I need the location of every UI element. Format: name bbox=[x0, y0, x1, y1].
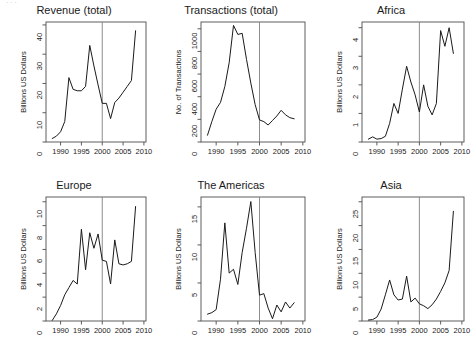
x-tick-label: 2010 bbox=[130, 148, 158, 156]
chart-panel-transactions-total: Transactions (total)02004006008001000199… bbox=[155, 4, 317, 176]
y-axis-label-the-americas: Billions US Dollars bbox=[175, 228, 183, 290]
y-tick-label: 0 bbox=[352, 321, 360, 345]
y-tick-label: 0 bbox=[352, 142, 360, 166]
y-tick-label: 0 bbox=[191, 142, 199, 166]
y-tick-label: 8 bbox=[36, 226, 44, 250]
data-series-line bbox=[208, 202, 295, 319]
data-series-line bbox=[208, 25, 295, 135]
y-tick-label: 200 bbox=[191, 119, 199, 143]
plot-frame bbox=[201, 197, 305, 321]
data-series-line bbox=[368, 211, 453, 320]
y-tick-label: 5 bbox=[352, 297, 360, 321]
y-tick-label: 30 bbox=[36, 54, 44, 78]
y-tick-label: 2 bbox=[352, 85, 360, 109]
x-tick-label: 2010 bbox=[289, 327, 317, 335]
y-axis-label-asia: Billions US Dollars bbox=[336, 228, 344, 290]
y-tick-label: 5 bbox=[191, 283, 199, 307]
y-tick-label: 4 bbox=[352, 28, 360, 52]
x-tick-label: 2010 bbox=[289, 148, 317, 156]
x-tick-label: 2010 bbox=[130, 327, 158, 335]
y-tick-label: 10 bbox=[191, 245, 199, 269]
y-tick-label: 15 bbox=[191, 207, 199, 231]
y-tick-label: 20 bbox=[36, 83, 44, 107]
y-tick-label: 0 bbox=[191, 321, 199, 345]
y-tick-label: 40 bbox=[36, 25, 44, 49]
chart-panel-asia: Asia051015202519901995200020052010Billio… bbox=[316, 179, 476, 355]
y-tick-label: 10 bbox=[352, 273, 360, 297]
y-axis-label-transactions-total: No. of Transactions bbox=[175, 50, 183, 115]
plot-frame bbox=[46, 22, 146, 142]
y-tick-label: 20 bbox=[352, 226, 360, 250]
y-tick-label: 600 bbox=[191, 74, 199, 98]
plot-frame bbox=[201, 22, 305, 142]
figure-panel-grid: · · · Revenue (total)0102030401990199520… bbox=[0, 0, 476, 355]
y-tick-label: 10 bbox=[36, 113, 44, 137]
chart-panel-the-americas: The Americas05101519901995200020052010Bi… bbox=[155, 179, 317, 355]
y-tick-label: 1 bbox=[352, 113, 360, 137]
y-axis-label-africa: Billions US Dollars bbox=[336, 51, 344, 113]
plot-frame bbox=[46, 197, 146, 321]
y-tick-label: 15 bbox=[352, 249, 360, 273]
chart-panel-africa: Africa0123419901995200020052010Billions … bbox=[316, 4, 476, 176]
chart-panel-europe: Europe024681019901995200020052010Billion… bbox=[0, 179, 158, 355]
y-tick-label: 0 bbox=[36, 142, 44, 166]
y-tick-label: 2 bbox=[36, 297, 44, 321]
y-axis-label-revenue-total: Billions US Dollars bbox=[20, 51, 28, 113]
y-tick-label: 6 bbox=[36, 249, 44, 273]
y-tick-label: 25 bbox=[352, 202, 360, 226]
y-axis-label-europe: Billions US Dollars bbox=[20, 228, 28, 290]
data-series-line bbox=[368, 28, 453, 139]
x-tick-label: 2010 bbox=[448, 327, 476, 335]
y-tick-label: 0 bbox=[36, 321, 44, 345]
x-tick-label: 2010 bbox=[448, 148, 476, 156]
data-series-line bbox=[52, 207, 135, 321]
data-series-line bbox=[52, 31, 135, 139]
plot-frame bbox=[362, 197, 464, 321]
y-tick-label: 800 bbox=[191, 51, 199, 75]
y-tick-label: 3 bbox=[352, 56, 360, 80]
chart-panel-revenue-total: Revenue (total)0102030401990199520002005… bbox=[0, 4, 158, 176]
y-tick-label: 10 bbox=[36, 202, 44, 226]
y-tick-label: 4 bbox=[36, 273, 44, 297]
plot-frame bbox=[362, 22, 464, 142]
y-tick-label: 1000 bbox=[191, 29, 199, 53]
y-tick-label: 400 bbox=[191, 97, 199, 121]
